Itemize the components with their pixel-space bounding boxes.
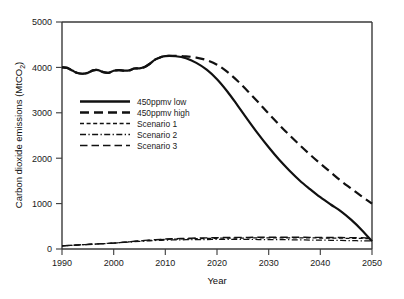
y-tick-label: 2000 — [32, 154, 52, 164]
x-tick-label: 2050 — [362, 258, 382, 268]
x-tick-label: 2000 — [104, 258, 124, 268]
x-axis-title: Year — [207, 275, 226, 286]
legend-label-450ppmv-low: 450ppmv low — [137, 97, 187, 107]
y-tick-label: 4000 — [32, 63, 52, 73]
x-axis-ticks — [62, 249, 372, 255]
legend-label-450ppmv-high: 450ppmv high — [137, 108, 190, 118]
x-tick-label: 2040 — [310, 258, 330, 268]
plot-area-background — [62, 22, 372, 249]
x-tick-label: 2020 — [207, 258, 227, 268]
y-tick-label: 1000 — [32, 199, 52, 209]
legend-label-scenario-1: Scenario 1 — [137, 119, 177, 129]
x-axis-tick-labels: 1990 2000 2010 2020 2030 2040 2050 — [52, 258, 382, 268]
y-tick-label: 5000 — [32, 17, 52, 27]
legend-label-scenario-3: Scenario 3 — [137, 141, 177, 151]
y-axis-ticks — [56, 22, 62, 249]
chart-figure: 0 1000 2000 3000 4000 5000 1990 2000 201… — [0, 0, 404, 299]
y-tick-label: 3000 — [32, 108, 52, 118]
x-tick-label: 2030 — [259, 258, 279, 268]
chart-svg: 0 1000 2000 3000 4000 5000 1990 2000 201… — [0, 0, 404, 299]
x-tick-label: 1990 — [52, 258, 72, 268]
y-axis-title: Carbon dioxide emissions (MtCO2) — [13, 62, 26, 208]
y-tick-label: 0 — [47, 244, 52, 254]
x-tick-label: 2010 — [155, 258, 175, 268]
y-axis-tick-labels: 0 1000 2000 3000 4000 5000 — [32, 17, 52, 254]
legend-label-scenario-2: Scenario 2 — [137, 130, 177, 140]
